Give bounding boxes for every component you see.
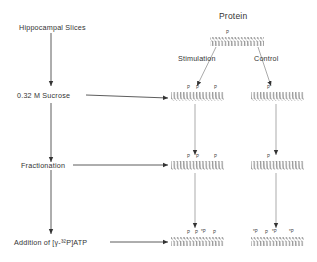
protein-coil-ctrl-sucrose <box>251 92 304 101</box>
phospho-mark: P <box>196 86 199 91</box>
protein-coil-stim-sucrose <box>171 92 224 101</box>
phospho-mark: P <box>226 31 229 36</box>
phospho-mark: P <box>187 155 190 160</box>
protein-coil-stim-atp <box>171 237 224 246</box>
branch-label-control: Control <box>254 54 279 63</box>
protein-header: Protein <box>219 11 247 21</box>
phospho-mark: P <box>195 231 198 236</box>
phospho-mark-radiolabeled: *P <box>253 230 258 235</box>
phospho-mark-radiolabeled: *P <box>272 230 277 235</box>
step-label-fractionation: Fractionation <box>21 161 65 170</box>
protein-coils <box>171 37 304 246</box>
step-label-atp-addition: Addition of [γ-³²P]ATP <box>14 238 87 247</box>
step-label-hippocampal-slices: Hippocampal Slices <box>19 23 86 32</box>
phospho-mark-radiolabeled: *P <box>289 230 294 235</box>
phospho-mark: P <box>213 231 216 236</box>
branch-label-stimulation: Stimulation <box>178 54 216 63</box>
workflow-diagram <box>0 0 317 262</box>
phospho-mark-radiolabeled: *P <box>201 230 206 235</box>
protein-coil-ctrl-atp <box>251 237 304 246</box>
phospho-mark: P <box>265 231 268 236</box>
step-label-sucrose: 0.32 M Sucrose <box>17 91 70 100</box>
protein-coil-stim-fraction <box>171 161 224 170</box>
branch-arrows <box>195 47 276 228</box>
protein-coil-ctrl-fraction <box>251 161 304 170</box>
phospho-mark: P <box>267 155 270 160</box>
step-to-protein-arrows <box>73 95 168 242</box>
protein-coil-initial <box>210 37 264 46</box>
phospho-mark: P <box>214 86 217 91</box>
phospho-mark: P <box>267 86 270 91</box>
phospho-mark: P <box>196 155 199 160</box>
phospho-mark: P <box>187 86 190 91</box>
phospho-mark: P <box>214 155 217 160</box>
phospho-mark: P <box>187 231 190 236</box>
